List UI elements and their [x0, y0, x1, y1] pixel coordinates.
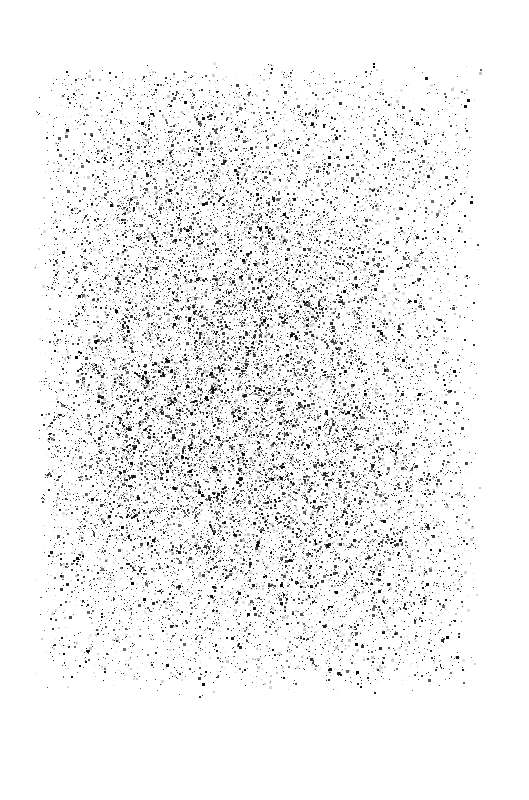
- document-scan-noise: [0, 0, 529, 800]
- scanned-page: Heavily degraded scanned document page c…: [0, 0, 529, 800]
